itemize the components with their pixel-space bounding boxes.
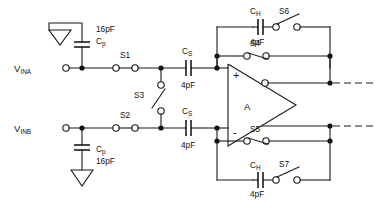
schematic-canvas: 16pF Cp VINA S1 CS 4pF S3 CH 4pF — [0, 0, 375, 210]
switch-s6[interactable] — [273, 14, 300, 30]
input-terminal-vina[interactable] — [63, 65, 69, 71]
ch-bottom-label: CH — [250, 160, 261, 171]
cp-top-value: 16pF — [96, 24, 115, 34]
port-label-vinb: VINB — [14, 123, 31, 135]
capacitor-ch-top — [217, 19, 273, 68]
switch-s3[interactable] — [152, 68, 165, 128]
junction-s3-bottom — [158, 125, 163, 130]
junction-vina-cp — [79, 65, 84, 70]
cs-bottom-label: CS — [182, 106, 192, 117]
cp-top-label: Cp — [96, 36, 106, 48]
ground-symbol-bottom — [71, 170, 93, 186]
port-label-vina: VINA — [14, 63, 32, 75]
switch-s1-label: S1 — [120, 50, 131, 60]
cp-bottom-label: Cp — [96, 144, 106, 156]
switch-s4-label: S4 — [250, 38, 261, 48]
ch-bottom-value: 4pF — [250, 189, 264, 199]
switch-s4[interactable] — [244, 53, 269, 59]
switch-s5[interactable] — [244, 138, 269, 144]
capacitor-cs-top — [186, 60, 217, 76]
switch-s7[interactable] — [273, 167, 300, 183]
amp-output-node — [262, 80, 268, 86]
switch-s3-label: S3 — [134, 90, 145, 100]
circuit-diagram: 16pF Cp VINA S1 CS 4pF S3 CH 4pF — [0, 0, 375, 210]
switch-s7-label: S7 — [279, 159, 290, 169]
switch-s2[interactable] — [113, 125, 138, 131]
switch-s5-label: S5 — [250, 124, 261, 134]
cp-bottom-value: 16pF — [96, 156, 115, 166]
input-terminal-vinb[interactable] — [63, 125, 69, 131]
amp-minus-pin-label: - — [233, 126, 237, 138]
cs-bottom-value: 4pF — [181, 140, 195, 150]
capacitor-cp-top — [74, 42, 90, 68]
amp-label: A — [244, 101, 251, 112]
switch-s6-label: S6 — [279, 6, 290, 16]
capacitor-cs-bottom — [186, 120, 217, 136]
capacitor-cp-bottom — [74, 128, 90, 170]
ch-top-label: CH — [250, 6, 261, 17]
switch-s2-label: S2 — [120, 110, 131, 120]
switch-s1[interactable] — [113, 65, 138, 71]
amp-plus-pin-label: + — [233, 69, 239, 81]
capacitor-ch-bottom — [217, 141, 273, 188]
cs-top-value: 4pF — [181, 80, 195, 90]
cs-top-label: CS — [182, 46, 192, 57]
